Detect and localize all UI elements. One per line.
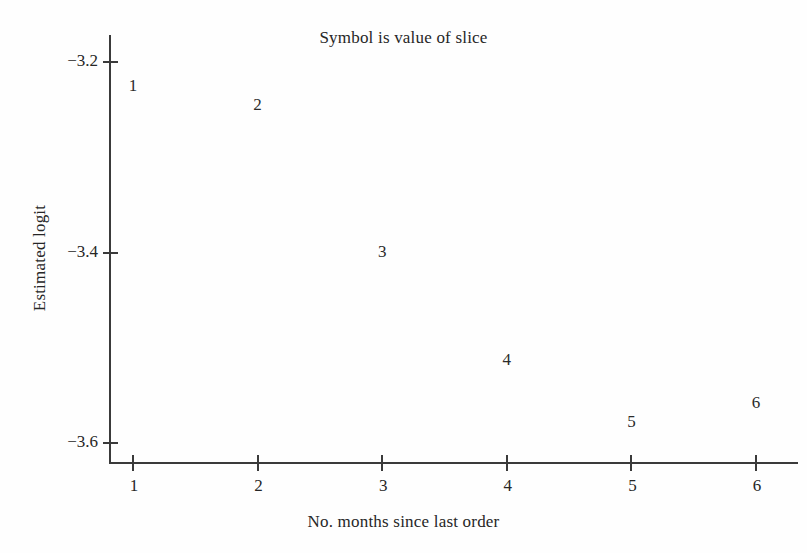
x-axis-line <box>110 462 798 464</box>
x-axis-tick-label: 5 <box>612 476 652 496</box>
data-point-marker: 4 <box>492 351 522 368</box>
x-axis-tick <box>630 455 632 471</box>
y-axis-tick-label: −3.4 <box>28 242 98 262</box>
x-axis-tick-label: 4 <box>488 476 528 496</box>
y-axis-tick <box>103 252 118 254</box>
x-axis-tick <box>506 455 508 471</box>
data-point-marker: 5 <box>616 413 646 430</box>
x-axis-tick-label: 6 <box>737 476 777 496</box>
x-axis-tick <box>381 455 383 471</box>
y-axis-tick <box>103 442 118 444</box>
chart-figure: Symbol is value of slice Estimated logit… <box>0 0 807 553</box>
y-axis-tick-label: −3.2 <box>28 51 98 71</box>
data-point-marker: 2 <box>243 96 273 113</box>
x-axis-tick-label: 2 <box>239 476 279 496</box>
y-axis-line <box>109 35 111 464</box>
data-point-marker: 6 <box>741 394 771 411</box>
data-point-marker: 3 <box>367 243 397 260</box>
chart-title: Symbol is value of slice <box>0 28 807 48</box>
x-axis-tick <box>257 455 259 471</box>
x-axis-tick-label: 1 <box>114 476 154 496</box>
data-point-marker: 1 <box>118 77 148 94</box>
x-axis-tick-label: 3 <box>363 476 403 496</box>
y-axis-tick-label: −3.6 <box>28 432 98 452</box>
x-axis-tick <box>755 455 757 471</box>
y-axis-tick <box>103 61 118 63</box>
x-axis-title: No. months since last order <box>0 512 807 532</box>
x-axis-tick <box>132 455 134 471</box>
